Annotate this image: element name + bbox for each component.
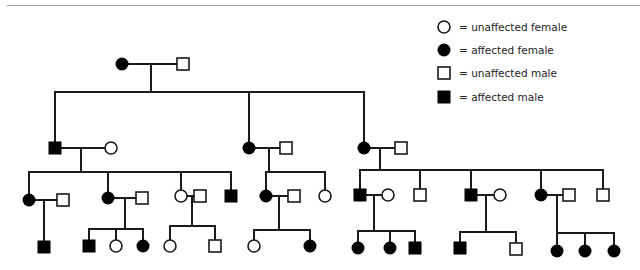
unaffected-female-icon — [105, 142, 117, 154]
unaffected-female-icon — [175, 190, 187, 202]
open-square-icon — [437, 66, 451, 80]
legend: = unaffected female = affected female = … — [437, 15, 567, 108]
affected-male-icon — [83, 240, 96, 253]
unaffected-female-icon — [382, 189, 394, 201]
unaffected-female-icon — [494, 189, 506, 201]
affected-female-icon — [243, 142, 256, 155]
open-circle-icon — [437, 20, 451, 34]
unaffected-female-icon — [319, 190, 331, 202]
affected-male-icon — [225, 190, 238, 203]
legend-label: = affected male — [459, 91, 544, 103]
legend-label: = unaffected male — [459, 67, 557, 79]
affected-female-icon — [551, 245, 564, 258]
unaffected-male-icon — [563, 189, 575, 201]
legend-item-unaffected-male: = unaffected male — [437, 62, 567, 85]
legend-item-affected-male: = affected male — [437, 85, 567, 108]
legend-label: = affected female — [459, 44, 554, 56]
affected-male-icon — [454, 242, 467, 255]
unaffected-female-icon — [248, 240, 260, 252]
affected-female-icon — [116, 58, 129, 71]
unaffected-male-icon — [510, 243, 522, 255]
affected-female-icon — [260, 190, 273, 203]
unaffected-male-icon — [57, 194, 69, 206]
affected-female-icon — [608, 245, 621, 258]
affected-male-icon — [465, 189, 478, 202]
affected-female-icon — [535, 189, 548, 202]
affected-female-icon — [384, 242, 397, 255]
unaffected-male-icon — [395, 142, 407, 154]
legend-label: = unaffected female — [459, 21, 567, 33]
affected-male-icon — [409, 242, 422, 255]
filled-square-icon — [437, 90, 451, 104]
unaffected-female-icon — [110, 240, 122, 252]
unaffected-male-icon — [209, 240, 221, 252]
unaffected-male-icon — [597, 189, 609, 201]
unaffected-male-icon — [177, 58, 189, 70]
unaffected-male-icon — [414, 189, 426, 201]
affected-female-icon — [579, 245, 592, 258]
affected-female-icon — [23, 194, 36, 207]
legend-item-affected-female: = affected female — [437, 38, 567, 61]
unaffected-male-icon — [194, 190, 206, 202]
unaffected-male-icon — [280, 142, 292, 154]
affected-female-icon — [358, 142, 371, 155]
legend-item-unaffected-female: = unaffected female — [437, 15, 567, 38]
affected-female-icon — [352, 242, 365, 255]
unaffected-male-icon — [136, 192, 148, 204]
affected-female-icon — [304, 240, 317, 253]
affected-female-icon — [137, 240, 150, 253]
unaffected-male-icon — [288, 190, 300, 202]
unaffected-female-icon — [164, 240, 176, 252]
affected-male-icon — [49, 142, 62, 155]
affected-male-icon — [354, 189, 367, 202]
affected-female-icon — [102, 192, 115, 205]
filled-circle-icon — [437, 43, 451, 57]
affected-male-icon — [38, 241, 51, 254]
